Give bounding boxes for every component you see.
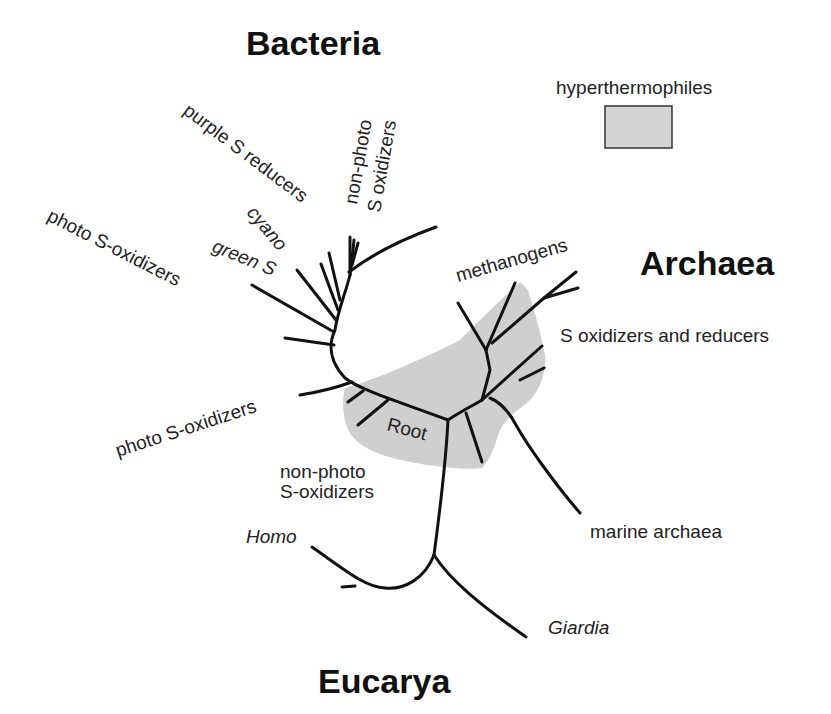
legend-swatch [605,106,672,148]
label-methanogens: methanogens [453,234,569,286]
domain-title-eucarya: Eucarya [318,662,451,700]
domain-title-bacteria: Bacteria [246,24,381,62]
label-homo: Homo [246,526,297,547]
label-giardia: Giardia [548,617,609,638]
label-photo-s-oxidizers-lower: photo S-oxidizers [113,395,259,460]
label-nonphoto-lower-line1: non-photo [280,461,366,482]
label-marine-archaea: marine archaea [590,521,722,542]
label-purple-s-reducers: purple S reducers [180,99,312,206]
label-nonphoto-lower-line2: S-oxidizers [280,481,374,502]
label-photo-s-oxidizers-top: photo S-oxidizers [44,205,184,290]
label-s-oxidizers-and-reducers: S oxidizers and reducers [560,325,769,346]
legend-label: hyperthermophiles [556,77,712,98]
label-cyano: cyano [243,202,292,254]
domain-title-archaea: Archaea [640,244,775,282]
hyperthermophile-region [343,282,545,469]
tree-of-life-diagram: Bacteria Archaea Eucarya hyperthermophil… [0,0,831,714]
